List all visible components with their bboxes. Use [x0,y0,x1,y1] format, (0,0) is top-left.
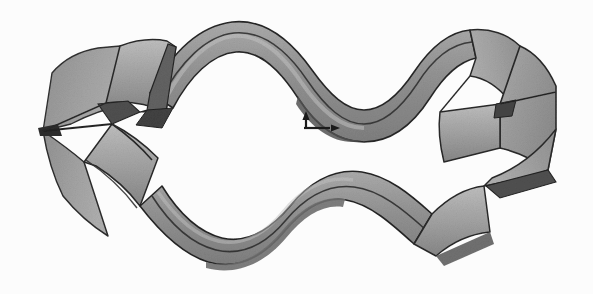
figure-container: Wavy closed ribbon band (corrugated annu… [0,0,593,294]
ribbon-illustration-svg [0,0,593,294]
paper-grain-overlay [0,0,593,294]
